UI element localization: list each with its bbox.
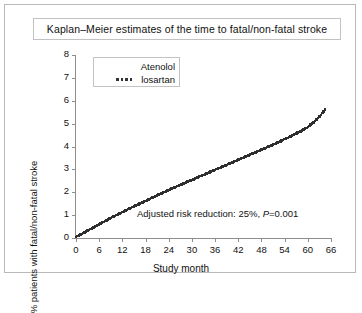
y-tick-label: 6 xyxy=(49,94,69,105)
x-tick-mark-18 xyxy=(146,238,147,242)
x-tick-mark-30 xyxy=(192,238,193,242)
y-tick-label: 7 xyxy=(49,71,69,82)
x-axis-label: Study month xyxy=(5,263,357,274)
x-axis-line xyxy=(75,238,332,239)
x-tick-label-36: 36 xyxy=(203,244,227,255)
annotation-suffix: =0.001 xyxy=(269,208,298,219)
x-tick-label-60: 60 xyxy=(296,244,320,255)
x-tick-mark-0 xyxy=(76,238,77,242)
x-tick-label-0: 0 xyxy=(64,244,88,255)
y-tick-label: 4 xyxy=(49,140,69,151)
y-tick-label: 1 xyxy=(49,208,69,219)
x-tick-mark-36 xyxy=(215,238,216,242)
y-tick-label: 8 xyxy=(49,48,69,59)
legend-item-losartan: losartan xyxy=(94,73,175,86)
y-tick-mark xyxy=(72,124,76,125)
figure-frame: Kaplan–Meier estimates of the time to fa… xyxy=(4,4,356,273)
x-tick-mark-12 xyxy=(122,238,123,242)
x-tick-label-30: 30 xyxy=(180,244,204,255)
x-tick-mark-54 xyxy=(285,238,286,242)
legend-label-losartan: losartan xyxy=(141,73,175,86)
y-tick-label: 3 xyxy=(49,162,69,173)
legend-key-dotted-icon xyxy=(116,76,138,84)
legend-label-atenolol: Atenolol xyxy=(141,60,175,73)
x-tick-mark-66 xyxy=(331,238,332,242)
legend-item-atenolol: Atenolol xyxy=(94,60,175,73)
x-tick-label-54: 54 xyxy=(273,244,297,255)
legend-key-solid-icon xyxy=(116,63,138,71)
x-tick-label-12: 12 xyxy=(110,244,134,255)
y-tick-label: 0 xyxy=(49,231,69,242)
data-point xyxy=(324,108,327,111)
x-tick-mark-6 xyxy=(99,238,100,242)
y-tick-mark xyxy=(72,78,76,79)
chart-title-box: Kaplan–Meier estimates of the time to fa… xyxy=(33,18,341,40)
y-tick-mark xyxy=(72,147,76,148)
y-axis-label: % patients with fatal/non-fatal stroke xyxy=(28,161,39,313)
x-tick-label-18: 18 xyxy=(134,244,158,255)
annotation-risk-reduction: Adjusted risk reduction: 25%, P=0.001 xyxy=(137,208,298,219)
x-tick-label-42: 42 xyxy=(226,244,250,255)
legend: Atenolol losartan xyxy=(93,57,180,87)
y-tick-mark xyxy=(72,169,76,170)
y-tick-label: 5 xyxy=(49,117,69,128)
x-tick-mark-48 xyxy=(261,238,262,242)
x-tick-mark-24 xyxy=(169,238,170,242)
y-tick-mark xyxy=(72,192,76,193)
x-tick-label-66: 66 xyxy=(319,244,343,255)
x-tick-label-48: 48 xyxy=(249,244,273,255)
x-tick-mark-42 xyxy=(238,238,239,242)
x-tick-label-6: 6 xyxy=(87,244,111,255)
y-tick-mark xyxy=(72,101,76,102)
x-tick-label-24: 24 xyxy=(157,244,181,255)
y-tick-mark xyxy=(72,215,76,216)
y-tick-label: 2 xyxy=(49,185,69,196)
x-tick-mark-60 xyxy=(308,238,309,242)
y-tick-mark xyxy=(72,55,76,56)
annotation-prefix: Adjusted risk reduction: 25%, xyxy=(137,208,263,219)
page-title: Kaplan–Meier estimates of the time to fa… xyxy=(47,23,327,35)
